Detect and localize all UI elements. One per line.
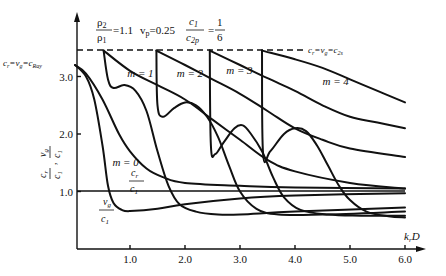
svg-text:cr: cr <box>131 167 138 180</box>
rayleigh-annotation: cr=vg=cRay <box>3 58 42 69</box>
mode-label: m = 4 <box>323 75 350 87</box>
mode-label: m = 2 <box>177 67 204 79</box>
x-tick-label: 2.0 <box>178 253 192 265</box>
x-tick-label: 1.0 <box>123 253 137 265</box>
x-tick-label: 4.0 <box>288 253 302 265</box>
mode-label: m = 1 <box>127 67 153 79</box>
svg-text:vg: vg <box>37 149 50 157</box>
x-tick-label: 5.0 <box>343 253 357 265</box>
svg-text:=1.1: =1.1 <box>113 24 133 36</box>
svg-text:ρ1: ρ1 <box>97 31 107 45</box>
svg-text:c1: c1 <box>51 171 64 179</box>
curve-m0-phase <box>75 65 405 189</box>
svg-text:vp=0.25: vp=0.25 <box>140 24 175 38</box>
svg-text:=: = <box>208 24 214 36</box>
axis-ticks: 1.02.03.04.05.06.01.02.03.0 <box>59 71 412 266</box>
x-axis-label: krD <box>404 230 420 244</box>
x-axis-arrow-icon <box>416 246 426 252</box>
svg-text:c1: c1 <box>189 15 198 29</box>
svg-text:c2p: c2p <box>186 31 199 45</box>
parameter-annotation: ρ2 ρ1 =1.1 vp=0.25 c1 c2p = 1 6 <box>96 15 225 45</box>
svg-text:c1: c1 <box>101 213 109 226</box>
y-tick-label: 1.0 <box>59 186 73 198</box>
svg-text:6: 6 <box>217 31 223 43</box>
svg-text:1: 1 <box>217 16 223 28</box>
y-tick-label: 3.0 <box>59 71 73 83</box>
mode-label: m = 0 <box>112 156 139 168</box>
svg-text:,: , <box>47 163 58 166</box>
curve-m0-group <box>75 65 405 211</box>
c2s-annotation: cr=vg=c2s <box>308 45 344 56</box>
x-tick-label: 6.0 <box>398 253 412 265</box>
svg-text:ρ2: ρ2 <box>97 16 107 30</box>
dispersion-chart: 1.02.03.04.05.06.01.02.03.0 m = 0m = 1m … <box>0 0 446 276</box>
svg-text:c1: c1 <box>130 183 138 196</box>
svg-text:c1: c1 <box>51 150 64 158</box>
y-axis-label: cr c1 , vg c1 <box>37 146 64 179</box>
mode-label: m = 3 <box>226 64 253 76</box>
svg-text:cr: cr <box>37 171 50 178</box>
y-axis-arrow-icon <box>74 12 80 22</box>
y-tick-label: 2.0 <box>59 128 73 140</box>
x-tick-label: 3.0 <box>233 253 247 265</box>
